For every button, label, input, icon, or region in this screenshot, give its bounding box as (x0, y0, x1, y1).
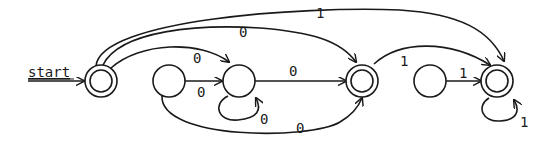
automaton-diagram: start 1 0 0 0 0 0 0 1 1 1 (0, 0, 552, 148)
state-q3 (346, 65, 378, 97)
edge-label-q5-q5: 1 (520, 114, 528, 130)
state-q0 (85, 65, 117, 97)
edge-label-q1-q3: 0 (296, 120, 304, 136)
edge-label-q3-q5: 1 (400, 53, 408, 69)
edge-q5-q5 (482, 98, 517, 121)
edge-label-q0-q2: 0 (193, 50, 201, 66)
edge-q0-q5 (96, 9, 504, 66)
edge-label-q4-q5: 1 (459, 65, 467, 81)
edge-q2-q2 (219, 96, 259, 120)
state-q4 (414, 65, 446, 97)
edge-label-q1-q2: 0 (197, 84, 205, 100)
edge-q3-q5 (374, 46, 490, 65)
state-q1 (153, 65, 185, 97)
state-q5 (481, 65, 513, 97)
edge-label-q2-q3: 0 (289, 63, 297, 79)
start-arrow: start (28, 64, 84, 81)
state-q2 (223, 65, 255, 97)
edge-label-q0-q5: 1 (316, 5, 324, 21)
edge-label-q0-q3: 0 (239, 24, 247, 40)
edge-label-q2-q2: 0 (260, 111, 268, 127)
edge-q0-q3 (103, 27, 356, 65)
start-label: start (28, 64, 70, 80)
